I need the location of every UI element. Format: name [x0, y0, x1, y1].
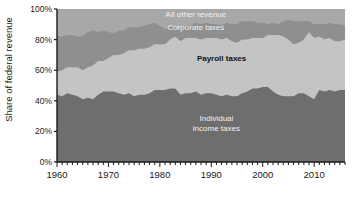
x-tick-label: 1980	[149, 169, 170, 180]
x-tick-label: 2000	[252, 169, 273, 180]
series-label-individual-income-taxes: income taxes	[193, 124, 240, 133]
x-tick-label: 1990	[201, 169, 222, 180]
x-axis-ticks: 196019701980199020002010	[46, 162, 345, 180]
y-axis-label-wrapper: Share of federal revenue	[2, 0, 24, 170]
series-label-payroll-taxes: Payroll taxes	[197, 54, 247, 63]
series-label-corporate-taxes: Corporate taxes	[167, 23, 224, 32]
y-tick-label: 40%	[35, 96, 52, 106]
series-label-individual-income-taxes: Individual	[200, 114, 234, 123]
chart-figure: Share of federal revenue 0%20%40%60%80%1…	[0, 0, 353, 201]
y-tick-label: 20%	[35, 126, 52, 136]
series-label-all-other-revenue: All other revenue	[166, 10, 227, 19]
x-tick-label: 1960	[46, 169, 67, 180]
x-tick-label: 2010	[304, 169, 325, 180]
y-tick-label: 60%	[35, 65, 52, 75]
y-tick-label: 0%	[40, 157, 53, 167]
y-tick-label: 80%	[35, 35, 52, 45]
x-tick-label: 1970	[98, 169, 119, 180]
stacked-area-chart: 0%20%40%60%80%100% 196019701980199020002…	[0, 0, 353, 201]
y-axis-ticks: 0%20%40%60%80%100%	[30, 4, 57, 167]
y-tick-label: 100%	[30, 4, 52, 14]
y-axis-label: Share of federal revenue	[2, 0, 16, 170]
